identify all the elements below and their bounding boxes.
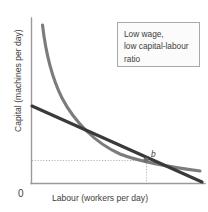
figure-container: b 0 Capital (machines per day) Labour (w… [0, 0, 208, 212]
y-axis-title: Capital (machines per day) [13, 29, 23, 132]
x-axis-title: Labour (workers per day) [52, 193, 148, 203]
callout-box: Low wage, low capital-labour ratio [117, 22, 200, 67]
origin-label: 0 [18, 188, 24, 199]
point-label-b: b [151, 149, 156, 159]
callout-text: Low wage, low capital-labour ratio [124, 28, 196, 65]
tangency-point-b-marker [143, 157, 148, 162]
isocost-line [32, 106, 202, 182]
